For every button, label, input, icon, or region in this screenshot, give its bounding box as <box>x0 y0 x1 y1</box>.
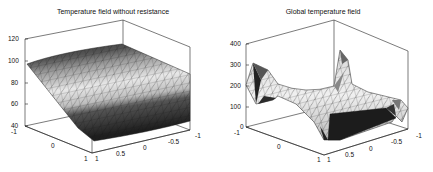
right-y-tick: -1 <box>416 132 422 139</box>
right-z-tick: 0 <box>240 123 244 130</box>
right-chart-plot <box>216 0 433 172</box>
left-y-tick: -0.5 <box>168 138 179 145</box>
left-y-tick: 1 <box>95 155 99 162</box>
left-z-tick: 100 <box>8 57 19 64</box>
left-z-tick: 80 <box>11 79 18 86</box>
right-z-tick: 200 <box>230 82 241 89</box>
left-y-tick: -1 <box>195 132 201 139</box>
right-x-tick: 0 <box>277 143 281 150</box>
right-x-tick: -1 <box>234 129 240 136</box>
left-z-tick: 60 <box>11 100 18 107</box>
left-z-tick: 120 <box>8 35 19 42</box>
right-y-tick: -0.5 <box>391 138 402 145</box>
left-y-tick: 0 <box>143 144 147 151</box>
left-chart-title: Temperature field without resistance <box>57 8 169 15</box>
right-z-tick: 100 <box>230 103 241 110</box>
right-y-tick: 0.5 <box>345 151 354 158</box>
left-x-tick: 0 <box>51 142 55 149</box>
right-z-tick: 300 <box>230 61 241 68</box>
right-y-tick: 0 <box>369 145 373 152</box>
right-chart-title: Global temperature field <box>286 8 361 15</box>
right-z-tick: 400 <box>230 40 241 47</box>
right-x-tick: 1 <box>317 156 321 163</box>
left-x-tick: 1 <box>84 155 88 162</box>
left-chart-panel: Temperature field without resistance 120… <box>0 0 216 172</box>
right-chart-panel: Global temperature field 400 300 200 100… <box>216 0 433 172</box>
left-chart-plot <box>0 0 216 172</box>
left-x-tick: -1 <box>11 128 17 135</box>
right-y-tick: 1 <box>327 156 331 163</box>
left-y-tick: 0.5 <box>116 150 125 157</box>
